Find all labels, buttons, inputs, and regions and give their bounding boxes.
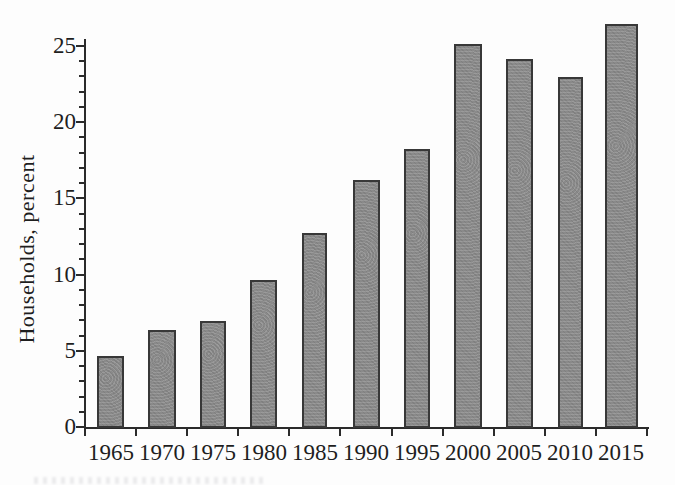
bar-1970: [148, 330, 176, 428]
y-minor-tick: [79, 335, 85, 337]
y-minor-tick: [79, 304, 85, 306]
y-major-tick: [76, 274, 85, 276]
bar-1975: [200, 321, 226, 428]
x-tick: [544, 429, 546, 436]
x-tick: [595, 429, 597, 436]
y-minor-tick: [79, 91, 85, 93]
y-minor-tick: [79, 365, 85, 367]
y-tick-label: 0: [38, 415, 76, 439]
y-minor-tick: [79, 106, 85, 108]
x-tick: [493, 429, 495, 436]
bar-chart: Households, percent 05101520251965197019…: [0, 0, 675, 485]
x-tick: [442, 429, 444, 436]
y-minor-tick: [79, 60, 85, 62]
y-major-tick: [76, 426, 85, 428]
y-minor-tick: [79, 182, 85, 184]
x-tick: [135, 429, 137, 436]
y-minor-tick: [79, 396, 85, 398]
bar-1965: [97, 356, 124, 428]
y-tick-label: 20: [38, 110, 76, 134]
x-tick: [391, 429, 393, 436]
y-minor-tick: [79, 152, 85, 154]
bar-2015: [605, 24, 638, 428]
y-tick-label: 15: [38, 186, 76, 210]
y-minor-tick: [79, 167, 85, 169]
y-minor-tick: [79, 411, 85, 413]
y-minor-tick: [79, 228, 85, 230]
x-tick: [84, 429, 86, 436]
y-axis-title: Households, percent: [14, 154, 40, 343]
y-minor-tick: [79, 258, 85, 260]
bar-1995: [404, 149, 430, 428]
y-tick-label: 10: [38, 263, 76, 287]
y-minor-tick: [79, 136, 85, 138]
y-minor-tick: [79, 289, 85, 291]
y-minor-tick: [79, 319, 85, 321]
bar-1990: [353, 180, 380, 428]
y-minor-tick: [79, 380, 85, 382]
y-minor-tick: [79, 213, 85, 215]
bar-1985: [302, 233, 327, 428]
bar-1980: [250, 280, 277, 428]
x-tick: [339, 429, 341, 436]
x-tick: [237, 429, 239, 436]
y-major-tick: [76, 197, 85, 199]
x-tick: [288, 429, 290, 436]
y-major-tick: [76, 45, 85, 47]
y-minor-tick: [79, 75, 85, 77]
bar-2005: [506, 59, 533, 428]
y-minor-tick: [79, 243, 85, 245]
y-tick-label: 25: [38, 34, 76, 58]
y-major-tick: [76, 350, 85, 352]
bar-2010: [558, 77, 583, 428]
page-edge-artifact: [34, 477, 264, 484]
y-tick-label: 5: [38, 339, 76, 363]
y-major-tick: [76, 121, 85, 123]
bar-2000: [454, 44, 482, 428]
x-tick: [186, 429, 188, 436]
y-axis-line: [84, 39, 86, 429]
x-tick: [646, 429, 648, 436]
x-tick-label: 2015: [589, 441, 653, 465]
